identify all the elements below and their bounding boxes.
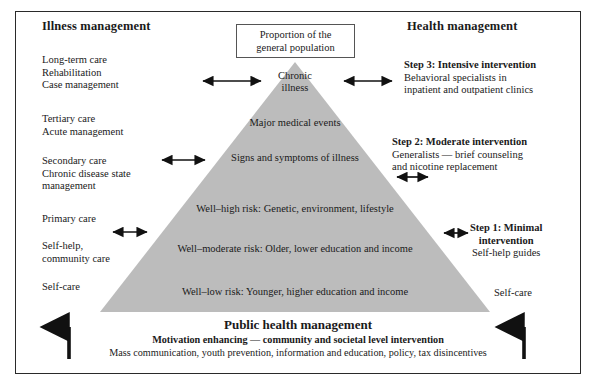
right-block-step-1: Step 1: Minimal intervention Self-help g… [470, 222, 542, 260]
right-self-care-label: Self-care [494, 287, 532, 300]
heading-health-management: Health management [407, 19, 518, 34]
left-block-self-care: Self-care [42, 281, 80, 294]
pyramid-band-signs-and-symptoms: Signs and symptoms of illness [175, 152, 415, 164]
band-line: Major medical events [195, 117, 395, 129]
left-block-primary-care: Primary care [42, 213, 96, 226]
left-line: Tertiary care [42, 113, 123, 126]
step-3-title: Step 3: Intensive intervention [404, 59, 536, 72]
band-line: Well–high risk: Genetic, environment, li… [135, 203, 455, 215]
step-1-title: Step 1: Minimal [470, 222, 542, 235]
step-1-title-cont: intervention [470, 235, 542, 248]
pyramid-band-major-medical-events: Major medical events [195, 117, 395, 129]
pyramid-band-well-low-risk: Well–low risk: Younger, higher education… [130, 286, 460, 298]
left-line: Chronic disease state [42, 168, 131, 181]
left-line: Acute management [42, 126, 123, 139]
footer-detail: Mass communication, youth prevention, in… [15, 346, 581, 359]
left-line: Self-help, [42, 240, 110, 253]
proportion-line-1: Proportion of the [237, 28, 354, 41]
band-line: Well–low risk: Younger, higher education… [130, 286, 460, 298]
left-line: Case management [42, 79, 119, 92]
heading-illness-management: Illness management [42, 19, 151, 34]
left-line: management [42, 180, 131, 193]
step-1-line: Self-help guides [470, 247, 542, 260]
footer-subtitle: Motivation enhancing — community and soc… [15, 333, 581, 346]
left-line: Self-care [42, 281, 80, 294]
pyramid-band-well-high-risk: Well–high risk: Genetic, environment, li… [135, 203, 455, 215]
band-line: illness [195, 82, 395, 94]
footer-public-health-management: Public health management Motivation enha… [15, 317, 581, 359]
left-block-long-term-care: Long-term care Rehabilitation Case manag… [42, 54, 119, 92]
proportion-callout-box: Proportion of the general population [236, 24, 355, 58]
right-block-self-care: Self-care [494, 287, 532, 300]
left-block-self-help: Self-help, community care [42, 240, 110, 265]
band-line: Chronic [195, 70, 395, 82]
step-3-line: Behavioral specialists in [404, 72, 536, 85]
pyramid-band-well-moderate-risk: Well–moderate risk: Older, lower educati… [125, 243, 465, 255]
left-line: Secondary care [42, 155, 131, 168]
step-3-line: inpatient and outpatient clinics [404, 84, 536, 97]
pyramid-band-chronic-illness: Chronic illness [195, 70, 395, 94]
band-line: Well–moderate risk: Older, lower educati… [125, 243, 465, 255]
right-block-step-3: Step 3: Intensive intervention Behaviora… [404, 59, 536, 97]
proportion-line-2: general population [237, 41, 354, 54]
left-block-tertiary-care: Tertiary care Acute management [42, 113, 123, 138]
left-line: Primary care [42, 213, 96, 226]
left-block-secondary-care: Secondary care Chronic disease state man… [42, 155, 131, 193]
step-2-title: Step 2: Moderate intervention [392, 136, 527, 149]
footer-title: Public health management [15, 317, 581, 333]
left-line: Rehabilitation [42, 67, 119, 80]
left-line: Long-term care [42, 54, 119, 67]
band-line: Signs and symptoms of illness [175, 152, 415, 164]
left-line: community care [42, 253, 110, 266]
diagram-canvas: Illness management Health management Pro… [0, 0, 594, 388]
